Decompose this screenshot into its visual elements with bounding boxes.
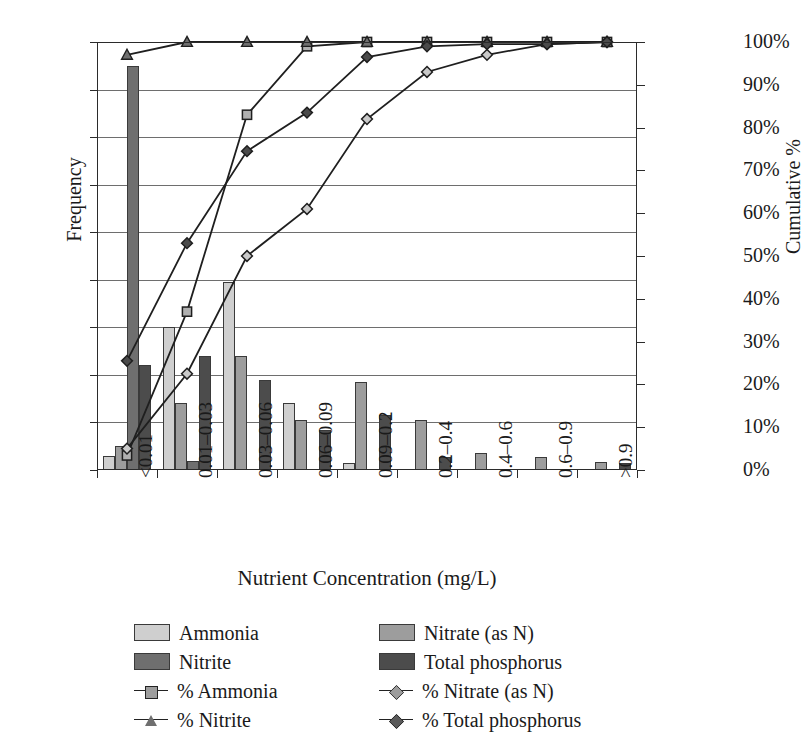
secondary-y-axis-tick-label: 80% [743, 117, 805, 137]
secondary-y-axis-tick [637, 427, 645, 428]
secondary-y-axis-tick [637, 256, 645, 257]
legend-marker-square-icon [145, 686, 158, 699]
secondary-y-axis-tick [637, 170, 645, 171]
legend-swatch [379, 624, 415, 641]
x-axis-tick [397, 470, 398, 478]
x-axis-tick-label: 0.03–0.06 [255, 402, 277, 478]
legend-item[interactable]: % Ammonia [134, 681, 379, 701]
secondary-y-axis-tick [637, 213, 645, 214]
legend-item[interactable]: Ammonia [134, 623, 379, 643]
y-axis-tick [90, 232, 97, 233]
secondary-y-axis-tick-label: 60% [743, 202, 805, 222]
x-axis-tick [217, 470, 218, 478]
plot-frame [97, 42, 637, 470]
x-axis-tick [577, 470, 578, 478]
legend-label: % Nitrate (as N) [422, 681, 554, 701]
legend-line-swatch [134, 713, 168, 727]
y-axis-tick [90, 185, 97, 186]
x-axis-tick-label: 0.4–0.6 [495, 421, 517, 478]
x-axis-tick [97, 470, 98, 478]
secondary-y-axis-tick [637, 384, 645, 385]
x-axis-tick [637, 470, 638, 478]
y-axis-tick [90, 137, 97, 138]
legend-label: Total phosphorus [424, 652, 562, 672]
secondary-y-axis-tick-label: 70% [743, 159, 805, 179]
legend-label: Nitrate (as N) [424, 623, 534, 643]
secondary-y-axis-tick-label: 30% [743, 331, 805, 351]
secondary-y-axis-tick-label: 10% [743, 416, 805, 436]
legend-line-swatch [379, 684, 413, 698]
secondary-y-axis-tick-label: 50% [743, 245, 805, 265]
legend-swatch [134, 653, 170, 670]
secondary-y-axis-tick [637, 470, 645, 471]
secondary-y-axis-tick [637, 42, 645, 43]
x-axis-tick-label: 0.06–0.09 [315, 402, 337, 478]
y-axis-label: Frequency [63, 120, 86, 280]
legend-marker-open-diamond-icon [389, 684, 404, 699]
legend-item[interactable]: % Total phosphorus [379, 710, 654, 730]
x-axis-tick-label: 0.01–0.03 [195, 402, 217, 478]
legend-item[interactable]: Nitrite [134, 652, 379, 672]
x-axis-tick [517, 470, 518, 478]
x-axis-tick-label: 0.6–0.9 [555, 421, 577, 478]
legend-label: % Nitrite [177, 710, 251, 730]
secondary-y-axis-tick-label: 90% [743, 74, 805, 94]
secondary-y-axis-tick [637, 128, 645, 129]
legend-marker-filled-diamond-icon [389, 713, 404, 728]
secondary-y-axis-tick-label: 0% [743, 459, 805, 479]
legend-item[interactable]: % Nitrate (as N) [379, 681, 654, 701]
x-axis-tick-label: 0.2–0.4 [435, 421, 457, 478]
legend-marker-triangle-icon [145, 715, 157, 726]
x-axis-tick [457, 470, 458, 478]
x-axis-tick-label: 0.09–0.2 [375, 412, 397, 479]
legend: AmmoniaNitrate (as N)NitriteTotal phosph… [134, 618, 654, 734]
legend-swatch [379, 653, 415, 670]
legend-label: Nitrite [179, 652, 231, 672]
secondary-y-axis-tick-label: 40% [743, 288, 805, 308]
legend-item[interactable]: % Nitrite [134, 710, 379, 730]
secondary-y-axis-tick-label: 100% [743, 31, 805, 51]
secondary-y-axis-tick-label: 20% [743, 373, 805, 393]
secondary-y-axis-tick [637, 299, 645, 300]
legend-item[interactable]: Nitrate (as N) [379, 623, 654, 643]
secondary-y-axis-tick [637, 342, 645, 343]
legend-line-swatch [134, 684, 168, 698]
y-axis-tick [90, 422, 97, 423]
y-axis-tick [90, 280, 97, 281]
legend-item[interactable]: Total phosphorus [379, 652, 654, 672]
legend-line-swatch [379, 713, 413, 727]
x-axis-tick-label: <0.01 [135, 434, 157, 478]
y-axis-tick [90, 375, 97, 376]
y-axis-tick [90, 42, 97, 43]
legend-label: % Total phosphorus [422, 710, 581, 730]
secondary-y-axis-tick [637, 85, 645, 86]
plot-area: 0102030405060708090 0%10%20%30%40%50%60%… [97, 42, 637, 470]
x-axis-tick [337, 470, 338, 478]
y-axis-tick [90, 90, 97, 91]
y-axis-tick [90, 470, 97, 471]
x-axis-tick [277, 470, 278, 478]
x-axis-tick [157, 470, 158, 478]
y-axis-tick [90, 327, 97, 328]
x-axis-tick-label: >0.9 [615, 444, 637, 478]
legend-label: Ammonia [179, 623, 259, 643]
legend-label: % Ammonia [177, 681, 278, 701]
x-axis-label: Nutrient Concentration (mg/L) [97, 566, 637, 591]
legend-swatch [134, 624, 170, 641]
